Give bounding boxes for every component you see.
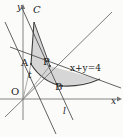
line-equation-label: x+y=4 xyxy=(70,64,101,73)
point-p-label: P xyxy=(43,57,50,67)
math-figure: y x C A P B O t l x+y=4 xyxy=(0,0,123,137)
origin-label: O xyxy=(11,87,19,97)
point-b-label: B xyxy=(55,82,62,92)
y-axis-label: y xyxy=(17,3,22,12)
x-axis-label: x xyxy=(111,97,116,106)
point-a-label: A xyxy=(21,58,28,68)
point-marker-a xyxy=(30,63,32,65)
x-axis-arrow xyxy=(117,97,122,102)
line-l-label: l xyxy=(63,107,66,116)
segment-t-label: t xyxy=(28,71,32,80)
figure-canvas xyxy=(0,0,123,137)
curve-c-label: C xyxy=(33,5,41,15)
